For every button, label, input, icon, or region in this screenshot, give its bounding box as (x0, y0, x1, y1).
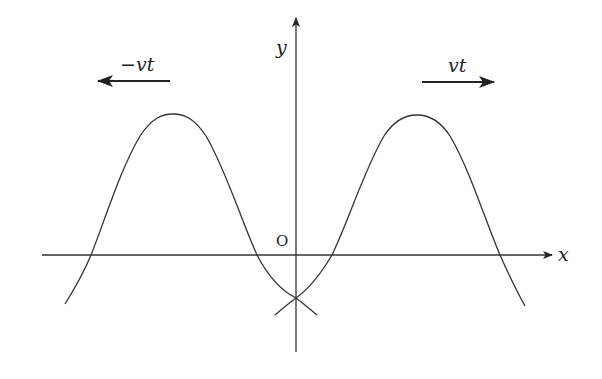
y-axis-label: y (276, 36, 287, 58)
left-pulse-curve (65, 114, 317, 315)
left-velocity-label: −vt (120, 53, 154, 75)
origin-label: O (276, 232, 288, 250)
wave-pulse-diagram: −vt vt y x O (0, 0, 602, 379)
diagram-svg (0, 0, 602, 379)
right-pulse-curve (275, 115, 525, 315)
right-velocity-label: vt (448, 54, 466, 76)
x-axis-label: x (558, 243, 569, 265)
